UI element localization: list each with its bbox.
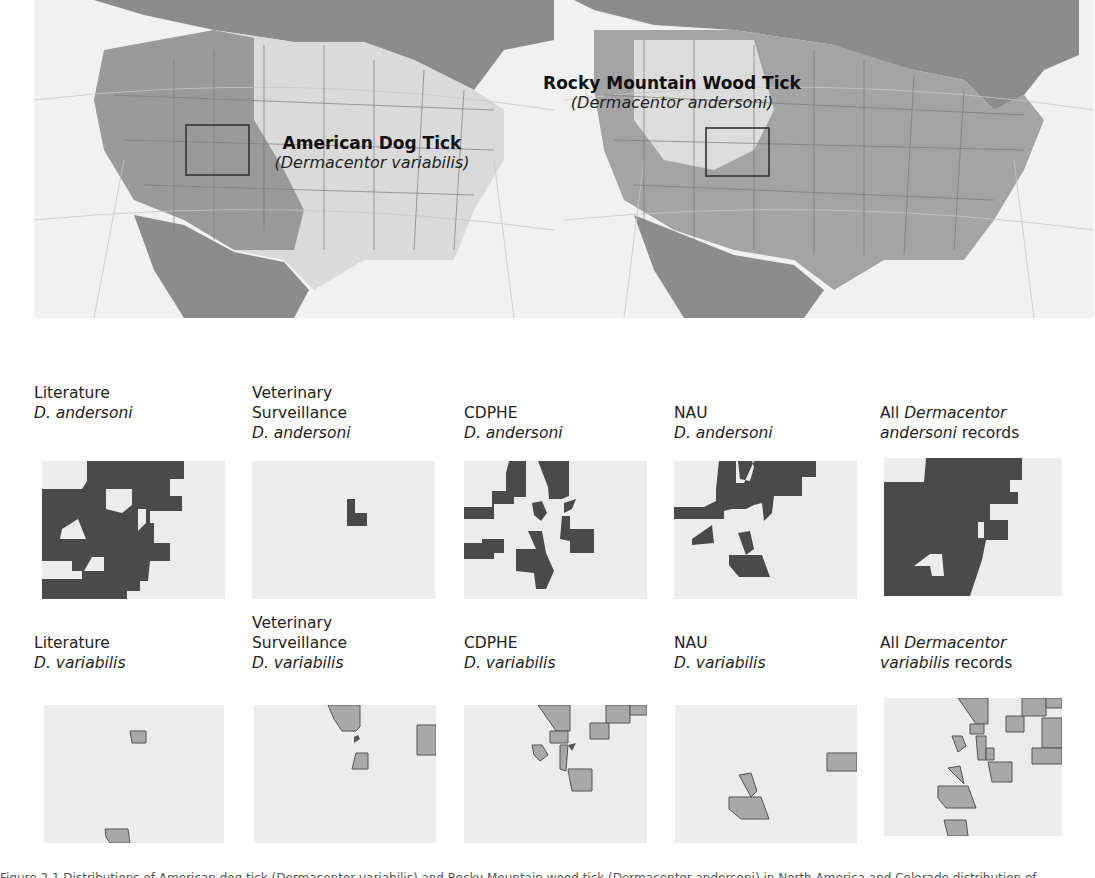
- colorado-map-nau-andersoni: [674, 461, 857, 599]
- panel-label-veterinary-variabilis: VeterinarySurveillanceD. variabilis: [252, 605, 422, 669]
- dog-tick-scientific-name: (Dermacentor variabilis): [252, 154, 492, 172]
- colorado-map-literature-andersoni: [42, 461, 225, 599]
- colorado-map-nau-variabilis: [675, 705, 857, 843]
- panel-label-cdphe-andersoni: CDPHED. andersoni: [464, 355, 634, 443]
- panel-label-nau-andersoni: NAUD. andersoni: [674, 355, 844, 443]
- panel-label-all-andersoni: All Dermacentorandersoni records: [880, 355, 1080, 443]
- colorado-map-veterinary-andersoni: [252, 461, 435, 599]
- colorado-map-cdphe-variabilis: [464, 705, 647, 843]
- wood-tick-common-name: Rocky Mountain Wood Tick: [542, 74, 802, 94]
- colorado-map-cdphe-andersoni: [464, 461, 647, 599]
- dog-tick-label: American Dog Tick (Dermacentor variabili…: [252, 134, 492, 172]
- wood-tick-scientific-name: (Dermacentor andersoni): [542, 94, 802, 112]
- figure-caption: Figure 2.1 Distributions of American dog…: [0, 870, 1095, 878]
- panel-label-veterinary-andersoni: VeterinarySurveillanceD. andersoni: [252, 355, 422, 443]
- panel-label-cdphe-variabilis: CDPHED. variabilis: [464, 605, 634, 669]
- colorado-map-all-variabilis: [884, 698, 1062, 836]
- range-map-graphic: [34, 0, 1094, 318]
- colorado-map-all-andersoni: [884, 458, 1062, 596]
- panel-label-literature-variabilis: LiteratureD. variabilis: [34, 605, 204, 669]
- panel-label-nau-variabilis: NAUD. variabilis: [674, 605, 844, 669]
- colorado-map-veterinary-variabilis: [254, 705, 436, 843]
- panel-label-all-variabilis: All Dermacentorvariabilis records: [880, 605, 1080, 669]
- panel-label-literature-andersoni: LiteratureD. andersoni: [34, 355, 204, 423]
- north-america-range-maps: American Dog Tick (Dermacentor variabili…: [34, 0, 1094, 318]
- colorado-map-literature-variabilis: [44, 705, 224, 843]
- dog-tick-common-name: American Dog Tick: [252, 134, 492, 154]
- wood-tick-label: Rocky Mountain Wood Tick (Dermacentor an…: [542, 74, 802, 112]
